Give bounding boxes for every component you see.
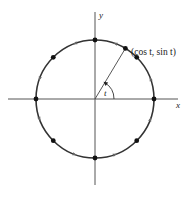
marked-point bbox=[34, 97, 39, 102]
marked-point bbox=[51, 138, 56, 143]
marked-point bbox=[51, 55, 56, 60]
marked-point bbox=[93, 38, 98, 43]
unit-circle-diagram: (cos t, sin t) t x y bbox=[0, 0, 193, 199]
x-axis-label: x bbox=[175, 100, 180, 110]
point-label: (cos t, sin t) bbox=[131, 47, 176, 58]
direction-arrow-icon bbox=[39, 76, 42, 81]
marked-point bbox=[93, 156, 98, 161]
marked-point bbox=[134, 138, 139, 143]
point-cos-sin bbox=[123, 46, 128, 51]
direction-arrow-icon bbox=[73, 41, 78, 44]
marked-point bbox=[152, 97, 157, 102]
direction-arrow-icon bbox=[113, 154, 118, 157]
radius-line bbox=[95, 48, 125, 99]
direction-arrow-icon bbox=[72, 152, 77, 155]
direction-arrow-icon bbox=[113, 43, 118, 46]
angle-label: t bbox=[104, 88, 107, 98]
y-axis-label: y bbox=[98, 10, 103, 20]
direction-arrow-icon bbox=[150, 77, 153, 82]
direction-arrow-icon bbox=[37, 117, 40, 122]
direction-arrow-icon bbox=[148, 117, 151, 122]
